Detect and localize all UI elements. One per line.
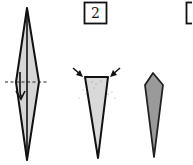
step-number-box-3 (187, 3, 193, 24)
push-arrow-right (110, 68, 120, 77)
push-arrow-left (73, 68, 83, 77)
origami-diagram: 2 3 (0, 0, 192, 165)
kite-shape (145, 73, 163, 157)
step-1 (5, 8, 49, 160)
triangle-shape (85, 77, 108, 158)
step-2: 2 (73, 3, 120, 159)
step-number-2: 2 (91, 5, 100, 21)
step-3: 3 (145, 3, 192, 158)
